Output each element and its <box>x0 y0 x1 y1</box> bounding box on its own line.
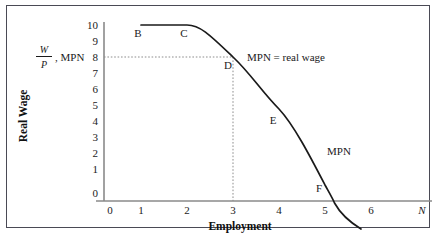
x-tick-3: 3 <box>230 204 236 216</box>
y-tick-10: 10 <box>87 19 99 31</box>
x-axis-title: Employment <box>208 220 271 233</box>
x-tick-6: 6 <box>368 204 374 216</box>
point-label-E: E <box>270 114 277 126</box>
y-tick-3: 3 <box>93 131 99 143</box>
x-tick-5: 5 <box>322 204 328 216</box>
chart-svg: 10 9 8 7 6 5 4 3 2 1 0 0 1 2 3 4 5 6 N B… <box>0 0 448 242</box>
mpn-curve-label: MPN <box>327 145 351 157</box>
point-label-D: D <box>224 59 232 71</box>
y-axis-title: Real Wage <box>17 90 30 143</box>
point-label-B: B <box>134 27 141 39</box>
x-axis-variable-N: N <box>417 204 426 216</box>
wage-symbol-suffix: , MPN <box>55 51 84 63</box>
equilibrium-annotation: MPN = real wage <box>247 51 325 63</box>
y-tick-2: 2 <box>93 147 99 159</box>
wage-symbol-numerator: W <box>40 44 50 55</box>
x-tick-0: 0 <box>107 204 113 216</box>
y-tick-9: 9 <box>93 35 99 47</box>
x-tick-2: 2 <box>184 204 190 216</box>
y-tick-8: 8 <box>93 51 99 63</box>
point-label-C: C <box>180 27 187 39</box>
mpn-labor-demand-chart: 10 9 8 7 6 5 4 3 2 1 0 0 1 2 3 4 5 6 N B… <box>0 0 448 242</box>
point-label-F: F <box>316 182 322 194</box>
y-tick-5: 5 <box>93 99 99 111</box>
x-tick-1: 1 <box>138 204 144 216</box>
wage-symbol-denominator: P <box>40 59 47 70</box>
y-tick-4: 4 <box>93 115 99 127</box>
y-tick-0: 0 <box>93 187 99 199</box>
x-tick-4: 4 <box>276 204 282 216</box>
y-tick-7: 7 <box>93 67 99 79</box>
y-tick-1: 1 <box>93 163 99 175</box>
y-tick-6: 6 <box>93 83 99 95</box>
